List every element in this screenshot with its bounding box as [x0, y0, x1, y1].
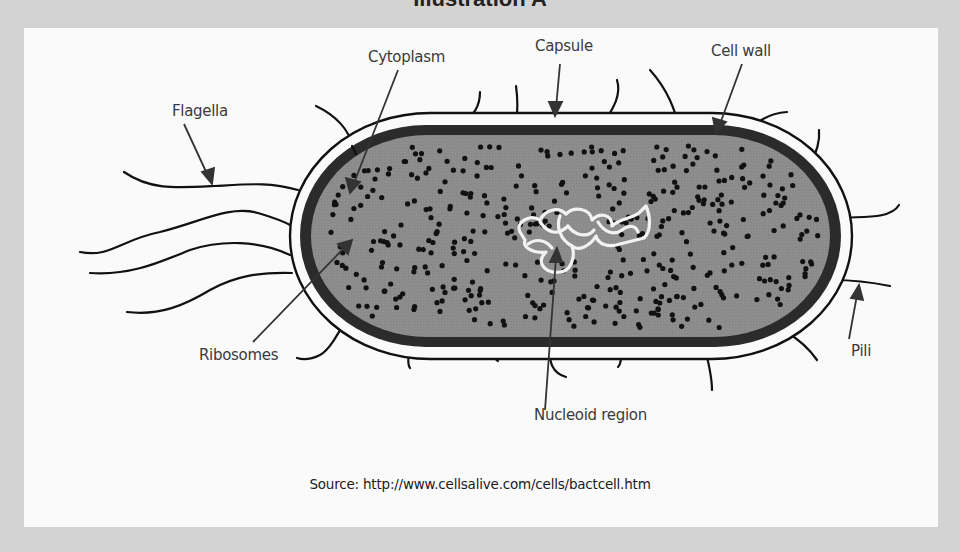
flagella [80, 172, 298, 313]
label-flagella: Flagella [172, 102, 228, 120]
label-cell-wall: Cell wall [711, 42, 771, 60]
label-nucleoid-region: Nucleoid region [534, 406, 647, 424]
cytoplasm [311, 135, 830, 337]
bacterial-cell-diagram [0, 0, 960, 552]
label-ribosomes: Ribosomes [199, 346, 278, 364]
label-capsule: Capsule [535, 37, 593, 55]
label-cytoplasm: Cytoplasm [368, 48, 445, 66]
label-pili: Pili [851, 342, 871, 360]
source-citation: Source: http://www.cellsalive.com/cells/… [0, 476, 960, 492]
